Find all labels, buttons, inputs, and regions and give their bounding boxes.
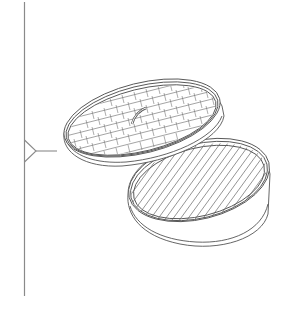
pointer-arrow-icon <box>25 140 58 162</box>
steamer-illustration <box>0 0 292 316</box>
